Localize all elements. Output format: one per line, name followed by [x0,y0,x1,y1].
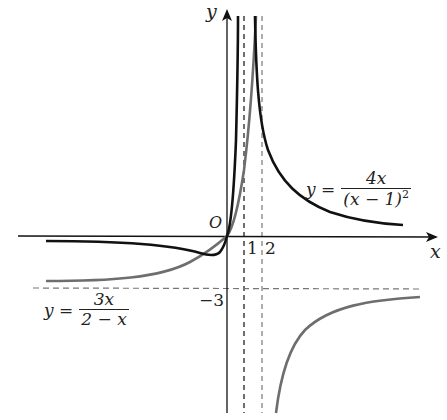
black-curve-equation-lhs: y = [306,179,335,199]
black-curve-denominator: (x − 1) [343,189,402,209]
y-axis-label: y [206,0,217,22]
gray-curve-equation: y = 3x 2 − x [44,291,129,329]
black-curve-exponent: 2 [402,188,409,201]
black-curve-numerator: 4x [364,170,388,188]
black-curve-fraction: 4x (x − 1)2 [341,170,411,208]
black-curve-equation: y = 4x (x − 1)2 [306,170,411,208]
gray-curve-fraction: 3x 2 − x [79,291,128,329]
gray-curve-equation-lhs: y = [44,300,73,320]
x-tick-1: 1 [247,238,258,258]
x-tick-2: 2 [265,238,276,258]
origin-label: O [209,213,222,232]
graph-figure [0,0,447,420]
black-curve-denominator-wrap: (x − 1)2 [341,188,411,208]
gray-curve-numerator: 3x [92,291,116,309]
y-tick-minus-3: −3 [199,290,224,310]
x-axis-label: x [430,240,441,262]
gray-curve-right-branch [276,297,420,413]
gray-curve-denominator: 2 − x [79,309,128,329]
